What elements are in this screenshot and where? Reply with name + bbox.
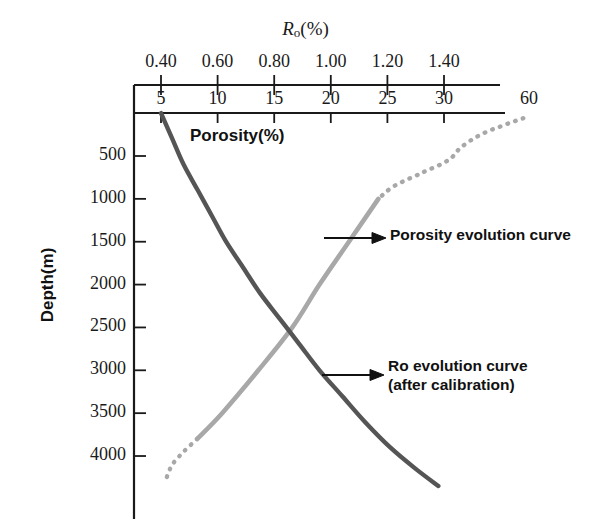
annotation-arrows: [322, 233, 386, 381]
porosity-curve-annotation: Porosity evolution curve: [390, 225, 571, 244]
depth-tick-label: 500: [40, 144, 126, 165]
ro-curve-annotation-line1: Ro evolution curve: [388, 356, 528, 375]
depth-tick-label: 1000: [40, 187, 126, 208]
depth-tick-marks: [134, 156, 146, 456]
ro-tick-marks: [161, 75, 444, 85]
porosity-curve-dotted-shallow: [378, 118, 523, 199]
depth-axis-title: Depth(m): [38, 215, 58, 355]
porosity-axis-title: Porosity(%): [190, 126, 284, 146]
depth-tick-label: 3000: [40, 358, 126, 379]
ro-axis-title-unit: (%): [300, 18, 328, 39]
depth-tick-label: 3500: [40, 401, 126, 422]
ro-curve-annotation-line2: (after calibration): [388, 375, 528, 394]
ro-axis-title: Ro(%): [0, 18, 611, 41]
ro-axis-title-main: R: [282, 18, 294, 39]
porosity-curve-dotted-deep: [167, 439, 198, 478]
por-tick-label: 30: [404, 88, 484, 109]
ro-curve: [161, 113, 438, 486]
porosity-annotation-arrow-head: [372, 233, 386, 244]
depth-tick-label: 4000: [40, 444, 126, 465]
ro-tick-label: 1.40: [404, 51, 484, 72]
ro-curve-annotation: Ro evolution curve (after calibration): [388, 356, 528, 395]
ro-annotation-arrow-head: [370, 370, 384, 381]
por-tick-label: 60: [489, 88, 569, 109]
